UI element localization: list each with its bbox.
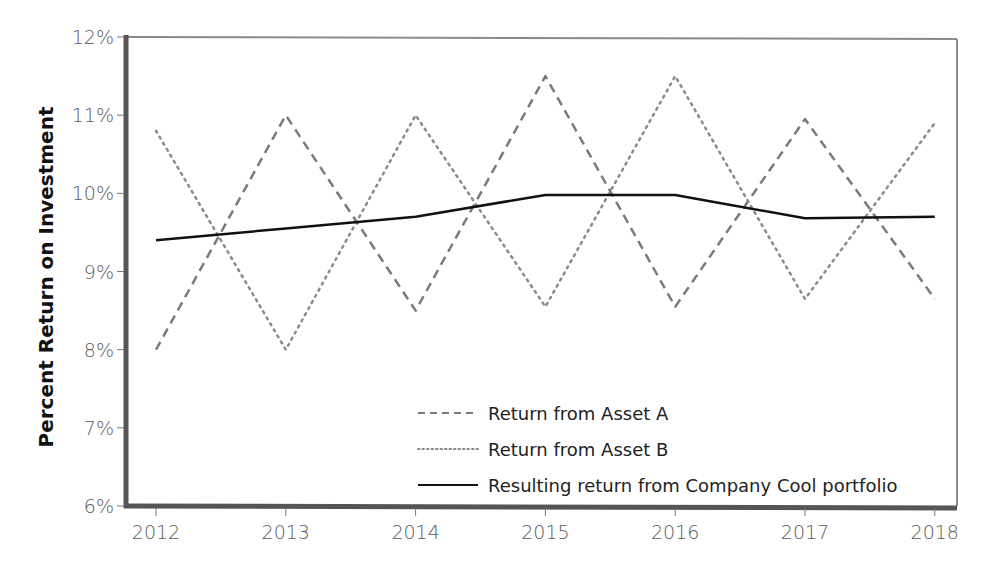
y-tick-label: 6% [84, 495, 114, 517]
x-tick-label: 2017 [781, 521, 829, 543]
legend-label: Return from Asset A [488, 403, 669, 424]
x-tick-label: 2012 [132, 521, 180, 543]
y-axis-label: Percent Return on Investment [34, 106, 58, 447]
y-tick-label: 11% [72, 104, 114, 126]
x-tick-label: 2013 [262, 521, 310, 543]
y-tick-label: 8% [84, 339, 114, 361]
x-tick-label: 2018 [911, 521, 959, 543]
legend-label: Resulting return from Company Cool portf… [488, 475, 897, 496]
x-tick-label: 2016 [651, 521, 699, 543]
y-tick-label: 7% [84, 417, 114, 439]
x-tick-label: 2015 [521, 521, 569, 543]
x-axis-ticks: 2012201320142015201620172018 [132, 508, 959, 543]
y-tick-label: 9% [84, 261, 114, 283]
plot-frame [124, 35, 957, 508]
y-axis-ticks: 6%7%8%9%10%11%12% [72, 26, 124, 517]
y-tick-label: 10% [72, 182, 114, 204]
y-tick-label: 12% [72, 26, 114, 48]
x-axis-line [124, 506, 957, 508]
legend-label: Return from Asset B [488, 439, 668, 460]
line-chart: 6%7%8%9%10%11%12% 2012201320142015201620… [0, 0, 990, 570]
x-tick-label: 2014 [391, 521, 439, 543]
